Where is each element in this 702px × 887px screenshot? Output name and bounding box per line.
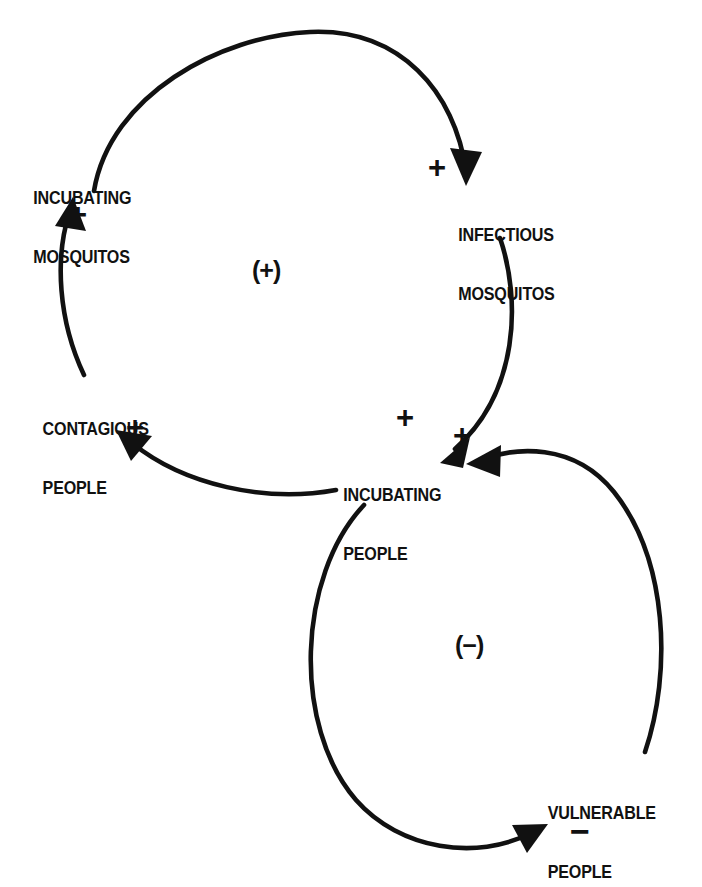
node-label-line-2: PEOPLE <box>43 479 149 499</box>
causal-loop-diagram: INCUBATING MOSQUITOS INFECTIOUS MOSQUITO… <box>0 0 702 887</box>
node-label-contagious-people: CONTAGIOUS PEOPLE <box>43 381 149 537</box>
polarity-sign-incubating-mosquitos-to-infectious-mosquitos: + <box>428 152 446 183</box>
node-label-line-1: INFECTIOUS <box>458 226 554 246</box>
polarity-sign-incubating-people-to-vulnerable-people: − <box>570 814 590 848</box>
node-label-line-2: PEOPLE <box>343 545 441 565</box>
loop-marker-reinforcing: (+) <box>252 258 280 283</box>
link-curve <box>94 32 466 191</box>
node-label-infectious-mosquitos: INFECTIOUS MOSQUITOS <box>458 187 554 343</box>
node-label-line-1: VULNERABLE <box>548 804 656 824</box>
polarity-sign-incubating-people-to-contagious-people: + <box>126 412 144 443</box>
arrow-head <box>466 445 501 477</box>
node-label-line-1: INCUBATING <box>343 486 441 506</box>
arrow-head <box>450 148 482 186</box>
link-vulnerable-people-to-incubating-people <box>466 445 661 752</box>
polarity-sign-contagious-people-to-incubating-mosquitos: + <box>69 199 87 230</box>
link-curve <box>483 451 661 752</box>
link-incubating-people-to-contagious-people <box>116 430 336 494</box>
node-label-incubating-people: INCUBATING PEOPLE <box>343 447 441 603</box>
polarity-sign-infectious-mosquitos-to-incubating-people: + <box>396 402 414 433</box>
polarity-sign-vulnerable-people-to-incubating-people: + <box>453 420 471 451</box>
link-curve <box>132 443 336 494</box>
node-label-line-2: PEOPLE <box>548 863 656 883</box>
node-label-line-2: MOSQUITOS <box>458 285 554 305</box>
link-incubating-mosquitos-to-infectious-mosquitos <box>94 32 482 191</box>
node-label-vulnerable-people: VULNERABLE PEOPLE <box>548 765 656 887</box>
loop-marker-balancing: (−) <box>455 633 483 658</box>
node-label-line-2: MOSQUITOS <box>33 248 131 268</box>
